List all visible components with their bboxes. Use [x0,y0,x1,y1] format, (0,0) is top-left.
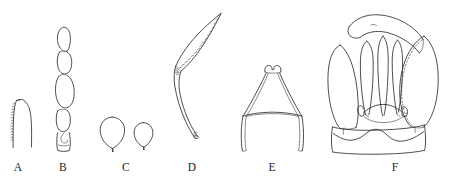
panel-d-drawing [174,14,221,139]
panel-d-serrations [179,18,219,68]
panel-label-f: F [385,162,405,174]
panel-label-e: E [262,162,282,174]
panel-label-b: B [53,162,73,174]
figure-plate: A B C D E F [0,0,456,181]
panel-label-c: C [116,162,136,174]
panel-f-drawing [328,15,438,154]
figure-drawing [0,0,456,181]
panel-e-drawing [241,65,303,151]
panel-d-articulation-texture [175,66,179,74]
panel-a-drawing [11,99,32,147]
panel-b-drawing [55,27,74,151]
panel-label-a: A [8,162,28,174]
panel-c-drawing [100,117,153,152]
panel-label-d: D [182,162,202,174]
